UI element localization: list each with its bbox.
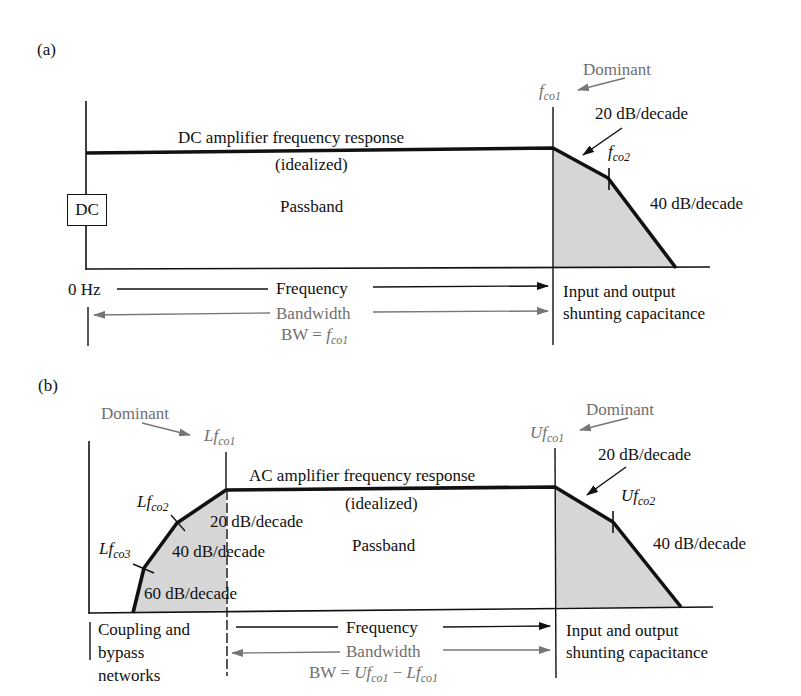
panel-b-idealized: (idealized) xyxy=(345,495,418,512)
fco2-label: fco2 xyxy=(608,143,630,160)
left-note-b-line3: networks xyxy=(98,667,160,684)
slope-40db-b-right: 40 dB/decade xyxy=(653,535,746,552)
ufco1-label: Ufco1 xyxy=(530,424,564,441)
dc-box: DC xyxy=(67,194,107,226)
slope-40db-b-left: 40 dB/decade xyxy=(172,543,265,560)
panel-b-passband: Passband xyxy=(352,537,415,554)
lfco2-label: Lfco2 xyxy=(137,493,169,510)
panel-b-title: AC amplifier frequency response xyxy=(249,467,475,484)
ufco2-label: Ufco2 xyxy=(621,487,655,504)
panel-a-title: DC amplifier frequency response xyxy=(178,129,404,146)
bw-equation-b: BW = Ufco1 − Lfco1 xyxy=(309,664,438,681)
lfco3-label: Lfco3 xyxy=(99,540,131,557)
slope-20db-b-right: 20 dB/decade xyxy=(598,446,691,463)
frequency-label-a: Frequency xyxy=(276,280,348,297)
panel-a-label: (a) xyxy=(37,41,56,58)
bandwidth-label-b: Bandwidth xyxy=(346,643,421,660)
bw-equation-a: BW = fco1 xyxy=(281,326,348,343)
panel-a-passband: Passband xyxy=(280,198,343,215)
panel-b-label: (b) xyxy=(38,377,58,394)
slope-40db-a: 40 dB/decade xyxy=(650,195,743,212)
frequency-label-b: Frequency xyxy=(346,619,418,636)
slope-60db-b-left: 60 dB/decade xyxy=(144,585,237,602)
right-note-a-line2: shunting capacitance xyxy=(563,305,705,322)
dominant-label-b-right: Dominant xyxy=(586,401,654,418)
bandwidth-label-a: Bandwidth xyxy=(276,305,351,322)
right-note-a-line1: Input and output xyxy=(563,283,675,300)
zero-hz-label: 0 Hz xyxy=(68,281,101,298)
lfco1-label: Lfco1 xyxy=(204,427,236,444)
fco1-label: fco1 xyxy=(539,82,561,99)
left-note-b-line1: Coupling and xyxy=(98,621,190,638)
left-note-b-line2: bypass xyxy=(98,644,144,661)
dominant-label-b-left: Dominant xyxy=(101,405,169,422)
right-note-b-line2: shunting capacitance xyxy=(566,644,708,661)
right-note-b-line1: Input and output xyxy=(566,622,678,639)
dominant-label-a: Dominant xyxy=(583,61,651,78)
panel-a-idealized: (idealized) xyxy=(275,156,348,173)
slope-20db-a: 20 dB/decade xyxy=(595,105,688,122)
slope-20db-b-left: 20 dB/decade xyxy=(210,513,303,530)
